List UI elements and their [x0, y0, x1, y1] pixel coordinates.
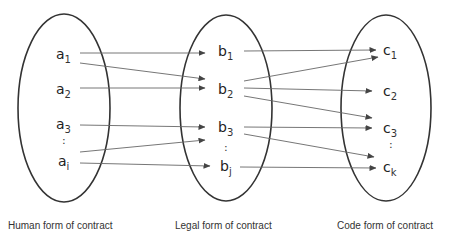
node-a1: a1: [56, 47, 71, 65]
node-c1: c1: [383, 43, 397, 61]
arrow-a3-b3: [80, 125, 205, 127]
node-a3: a3: [56, 117, 71, 135]
node-ai: ai: [58, 154, 69, 172]
set-a-ellipse: [18, 14, 110, 202]
arrow-ai-bj: [80, 163, 210, 166]
node-b3: b3: [218, 120, 233, 138]
node-b2: b2: [218, 82, 233, 100]
caption-human-form: Human form of contract: [8, 220, 112, 231]
node-c3: c3: [383, 121, 397, 139]
caption-legal-form: Legal form of contract: [175, 220, 272, 231]
node-b1: b1: [218, 44, 233, 62]
node-a2: a2: [56, 82, 71, 100]
node-c2: c2: [383, 84, 397, 102]
arrow-b2-c1: [244, 57, 378, 81]
ellipsis-c: :: [389, 139, 393, 150]
node-ck: ck: [383, 160, 397, 178]
arrow-b1-c1: [244, 50, 376, 51]
arrow-b3-c3: [244, 127, 372, 128]
node-bj: bj: [220, 159, 232, 177]
arrow-a1-b2: [80, 63, 205, 79]
arrow-b2-c2: [244, 88, 372, 91]
caption-code-form: Code form of contract: [337, 220, 433, 231]
arrow-ai-b3: [80, 140, 205, 152]
ellipsis-a: :: [62, 135, 66, 146]
arrow-b3-ck: [244, 134, 374, 157]
arrow-b2-c3: [244, 96, 372, 118]
ellipsis-b: :: [224, 142, 228, 153]
